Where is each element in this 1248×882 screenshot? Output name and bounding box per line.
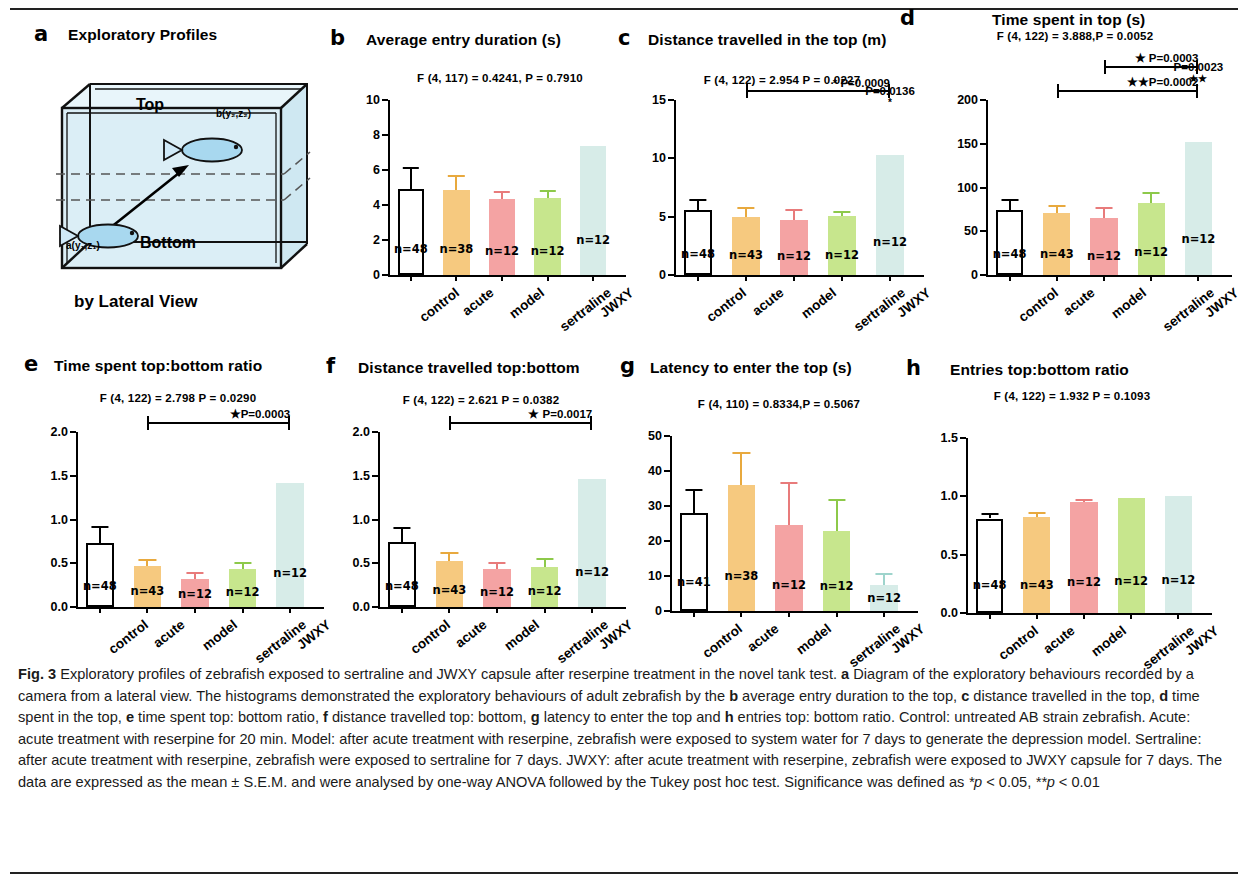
panel-e-anova-stats: F (4, 122) = 2.798 P = 0.0290 [38,392,318,404]
error-bar-cap [833,211,850,213]
y-tick-label: 2.0 [51,425,68,439]
panel-h-plot-area: 0.00.51.01.5n=48controln=43acuten=12mode… [966,438,1202,613]
bar-b-sertraline [534,198,560,275]
error-bar-cap [1076,499,1093,501]
x-axis-label-acute: acute [460,285,497,319]
x-axis-label-model: model [793,621,834,657]
caption-segment: Fig. 3 [18,666,56,682]
y-tick-label: 1.0 [353,513,370,527]
error-bar [989,513,991,519]
error-bar-cap [876,573,893,575]
caption-segment: d [1159,688,1168,704]
bar-n-label: n=43 [1020,578,1054,592]
bar-n-label: n=41 [677,575,711,589]
panel-b-chart: bAverage entry duration (s)F (4, 117) = … [330,26,646,365]
error-bar [242,562,244,569]
x-axis-label-acute: acute [151,617,188,651]
bar-d-sertraline [1138,203,1165,275]
error-bar [697,199,699,210]
error-bar-cap [91,526,108,528]
significance-free-annotation: P=0.0023★★ [1138,62,1248,84]
y-tick [664,540,670,542]
x-tick [693,611,695,617]
tank-footer-label: by Lateral View [74,292,197,312]
y-tick-label: 20 [648,534,662,548]
panel-h-chart: hEntries top:bottom ratioF (4, 122) = 1.… [900,352,1232,703]
bar-n-label: n=12 [1114,574,1148,588]
panel-a-title: Exploratory Profiles [68,26,217,43]
x-axis-label-acute: acute [453,617,490,651]
bar-c-sertraline [828,216,856,275]
panel-d-anova-stats: F (4, 122) = 3.888,P = 0.0052 [940,30,1210,42]
panel-g-letter: g [620,356,635,377]
x-axis-label-acute: acute [745,621,782,655]
error-bar-cap [186,572,203,574]
error-bar-cap [685,489,702,491]
tank-point-b-label: b(y₂,z₂) [216,108,251,119]
x-tick [146,607,148,613]
x-tick [889,275,891,281]
panel-e-y-axis [76,432,78,609]
x-tick [1036,613,1038,619]
y-tick [70,475,76,477]
water-top-fill [62,84,307,108]
y-tick-label: 1.5 [51,469,68,483]
y-tick-label: 30 [648,499,662,513]
panel-b-y-axis [388,100,390,277]
panel-e-letter: e [24,354,38,375]
x-axis-label-model: model [1108,285,1149,321]
bar-n-label: n=48 [83,579,117,593]
error-bar [99,526,101,544]
bar-n-label: n=12 [777,249,811,263]
bar-n-label: n=12 [772,578,806,592]
caption-segment: distance travelled in the top, [969,688,1159,704]
error-bar [745,207,747,216]
y-tick [70,519,76,521]
error-bar-cap [441,552,458,554]
y-tick [664,505,670,507]
y-tick-label: 1.0 [51,513,68,527]
error-bar-cap [536,558,553,560]
significance-bracket: ★★P=0.0002 [1057,90,1199,92]
error-bar-cap [1096,207,1113,209]
x-tick [836,611,838,617]
x-tick [410,275,412,281]
significance-label: ★ P=0.0017 [528,407,592,421]
x-axis-label-control: control [995,623,1040,663]
bar-n-label: n=12 [1087,249,1121,263]
y-tick [382,169,388,171]
y-tick-label: 0.0 [941,606,958,620]
error-bar [740,452,742,485]
significance-bracket-line [147,422,290,424]
x-axis-label-model: model [501,617,542,653]
significance-star: ★★ [1138,74,1248,84]
bar-n-label: n=12 [1161,573,1195,587]
panel-d-x-axis [986,275,1232,277]
error-bar-cap [1028,512,1045,514]
error-bar-cap [780,482,797,484]
error-bar [1083,499,1085,502]
y-tick [372,606,378,608]
error-bar-cap [494,191,510,193]
panel-e-plot-area: 0.00.51.01.52.0n=48controln=43acuten=12m… [76,432,314,607]
error-bar [501,191,503,199]
y-tick-label: 4 [373,198,380,212]
x-tick [1150,275,1152,281]
y-tick-label: 100 [957,181,978,195]
y-tick-label: 1.5 [941,431,958,445]
bar-d-control [996,210,1023,275]
significance-p-value: P=0.0023 [1138,62,1248,73]
tank-bottom-label: Bottom [140,234,196,252]
y-tick-label: 10 [652,151,666,165]
bar-n-label: n=12 [480,585,514,599]
caption-segment: distance travelled top: bottom, [328,709,531,725]
panel-f-y-axis [378,432,380,609]
y-tick-label: 1.5 [353,469,370,483]
x-tick [194,607,196,613]
bar-n-label: n=48 [681,247,715,261]
y-tick [668,99,674,101]
error-bar-cap [689,199,706,201]
panel-f-letter: f [326,356,335,377]
panel-f-title: Distance travelled top:bottom [358,359,580,376]
error-bar [146,559,148,566]
